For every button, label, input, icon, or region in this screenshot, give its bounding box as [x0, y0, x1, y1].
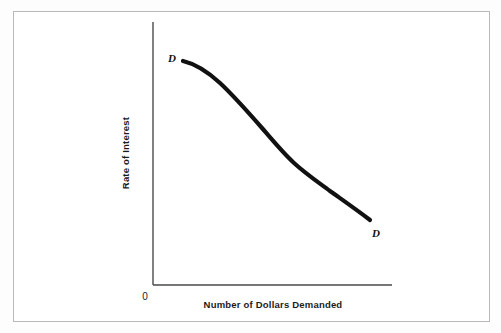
- origin-label: 0: [142, 291, 148, 302]
- demand-curve-upper-label: D: [168, 52, 176, 64]
- figure-container: Rate of Interest Number of Dollars Deman…: [0, 0, 501, 333]
- demand-curve-lower-label: D: [372, 227, 380, 239]
- y-axis-label: Rate of Interest: [120, 117, 131, 189]
- x-axis-label: Number of Dollars Demanded: [204, 299, 343, 310]
- demand-curve-plot: [0, 0, 501, 333]
- demand-curve-line: [183, 61, 370, 220]
